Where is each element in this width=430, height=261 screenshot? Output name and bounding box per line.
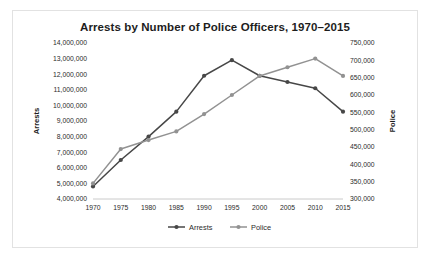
y2-axis-tick-label: 650,000	[350, 74, 375, 81]
y2-axis-tick-label: 700,000	[350, 57, 375, 64]
chart-card: Arrests by Number of Police Officers, 19…	[12, 10, 418, 248]
data-point-arrests-2005	[285, 80, 289, 84]
y-axis-tick-label: 13,000,000	[53, 55, 87, 62]
y-axis-tick-label: 10,000,000	[53, 102, 87, 109]
x-axis-tick-label: 1975	[113, 204, 128, 211]
y-axis-title: Arrests	[32, 108, 41, 135]
y-axis-tick-label: 4,000,000	[57, 195, 87, 202]
x-axis-tick-label: 2000	[252, 204, 267, 211]
y-axis-tick-label: 12,000,000	[53, 71, 87, 78]
legend-marker-police	[236, 225, 240, 229]
legend-marker-arrests	[174, 225, 178, 229]
x-axis-tick-label: 1985	[169, 204, 184, 211]
x-axis-tick-label: 1995	[224, 204, 239, 211]
x-axis-tick-label: 1980	[141, 204, 156, 211]
data-point-arrests-1990	[202, 74, 206, 78]
y2-axis-tick-label: 300,000	[350, 195, 375, 202]
data-point-arrests-2015	[341, 110, 345, 114]
data-point-arrests-1995	[230, 58, 234, 62]
y2-axis-title: Police	[388, 110, 397, 132]
data-point-police-2010	[313, 57, 317, 61]
data-point-police-1980	[146, 138, 150, 142]
y-axis-tick-label: 7,000,000	[57, 149, 87, 156]
x-axis-tick-label: 1990	[197, 204, 212, 211]
data-point-police-2005	[285, 65, 289, 69]
y2-axis-tick-label: 750,000	[350, 39, 375, 46]
line-chart-plot: 4,000,0005,000,0006,000,0007,000,0008,00…	[13, 11, 419, 249]
data-point-police-1990	[202, 112, 206, 116]
y2-axis-tick-label: 450,000	[350, 143, 375, 150]
y-axis-tick-label: 5,000,000	[57, 180, 87, 187]
y2-axis-tick-label: 350,000	[350, 178, 375, 185]
data-point-police-1975	[119, 147, 123, 151]
y2-axis-tick-label: 550,000	[350, 109, 375, 116]
y-axis-tick-label: 9,000,000	[57, 117, 87, 124]
series-line-police	[93, 59, 343, 184]
y2-axis-tick-label: 600,000	[350, 91, 375, 98]
y-axis-tick-label: 14,000,000	[53, 39, 87, 46]
x-axis-tick-label: 2005	[280, 204, 295, 211]
y2-axis-tick-label: 400,000	[350, 161, 375, 168]
y-axis-tick-label: 8,000,000	[57, 133, 87, 140]
data-point-arrests-1985	[174, 110, 178, 114]
legend-label-police: Police	[251, 223, 271, 232]
data-point-arrests-2010	[313, 86, 317, 90]
data-point-arrests-1975	[119, 158, 123, 162]
x-axis-tick-label: 2015	[335, 204, 350, 211]
x-axis-tick-label: 1970	[85, 204, 100, 211]
y-axis-tick-label: 6,000,000	[57, 164, 87, 171]
y2-axis-tick-label: 500,000	[350, 126, 375, 133]
x-axis-tick-label: 2010	[308, 204, 323, 211]
data-point-police-2015	[341, 74, 345, 78]
legend-label-arrests: Arrests	[189, 223, 213, 232]
data-point-police-1985	[174, 129, 178, 133]
series-line-arrests	[93, 60, 343, 186]
data-point-police-1995	[230, 93, 234, 97]
data-point-police-1970	[91, 181, 95, 185]
data-point-police-2000	[258, 74, 262, 78]
y-axis-tick-label: 11,000,000	[53, 86, 87, 93]
